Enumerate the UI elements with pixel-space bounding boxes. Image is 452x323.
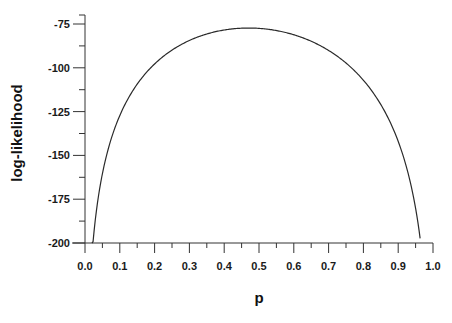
x-tick-label: 0.2 xyxy=(147,260,162,272)
x-tick-label: 0.5 xyxy=(251,260,266,272)
x-tick-label: 0.6 xyxy=(286,260,301,272)
y-tick-label: -125 xyxy=(48,106,70,118)
x-tick-label: 0.1 xyxy=(112,260,127,272)
x-tick-label: 0.7 xyxy=(321,260,336,272)
x-tick-label: 0.9 xyxy=(391,260,406,272)
x-axis: 0.00.10.20.30.40.50.60.70.80.91.0 xyxy=(72,243,441,272)
x-axis-label: p xyxy=(254,289,263,306)
y-axis-label: log-likelihood xyxy=(8,84,25,182)
y-tick-label: -75 xyxy=(54,18,70,30)
y-tick-label: -150 xyxy=(48,149,70,161)
log-likelihood-curve xyxy=(92,28,420,243)
y-tick-label: -100 xyxy=(48,62,70,74)
y-axis: -75-100-125-150-175-200 xyxy=(48,15,85,249)
y-tick-label: -175 xyxy=(48,193,70,205)
x-tick-label: 0.3 xyxy=(182,260,197,272)
plot-area xyxy=(92,28,420,243)
chart: -75-100-125-150-175-200 0.00.10.20.30.40… xyxy=(0,0,452,323)
x-tick-label: 1.0 xyxy=(425,260,440,272)
x-tick-label: 0.4 xyxy=(217,260,233,272)
x-tick-label: 0.0 xyxy=(77,260,92,272)
x-tick-label: 0.8 xyxy=(356,260,371,272)
y-tick-label: -200 xyxy=(48,237,70,249)
